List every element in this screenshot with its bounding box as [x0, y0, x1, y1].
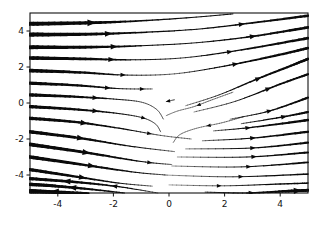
streamline-segment: [194, 106, 196, 107]
streamline-segment: [155, 149, 160, 150]
y-tick-label: 4: [18, 26, 24, 36]
streamline-segment: [264, 165, 272, 166]
streamline-segment: [207, 101, 209, 102]
streamline-segment: [264, 119, 269, 120]
streamline-segment: [268, 119, 272, 120]
streamline-segment: [187, 131, 189, 132]
streamline-segment: [208, 41, 214, 42]
streamline-segment: [225, 26, 231, 27]
streamline-segment: [145, 103, 147, 104]
streamline-segment: [186, 131, 188, 132]
x-tick-label: -2: [109, 199, 118, 209]
streamline-segment: [199, 127, 201, 128]
streamline-segment: [215, 67, 220, 68]
streamline-segment: [195, 128, 197, 129]
streamline-segment: [230, 25, 236, 26]
streamline-segment: [258, 126, 264, 127]
streamline-segment: [222, 104, 227, 105]
streamline-arrowhead-icon: [206, 124, 211, 127]
streamline-segment: [282, 154, 289, 155]
streamline-segment: [128, 188, 133, 189]
streamline-segment: [135, 147, 140, 148]
x-axis-ticks: -4-2024: [53, 193, 283, 209]
streamline-segment: [109, 156, 115, 157]
streamline-segment: [121, 158, 127, 159]
streamline-segment: [258, 137, 264, 138]
streamline-segment: [247, 122, 251, 123]
streamline-segment: [219, 40, 225, 41]
streamline-arrowhead-icon: [108, 57, 115, 62]
y-tick-label: 2: [18, 62, 24, 72]
streamline-segment: [161, 135, 165, 136]
streamline-segment: [261, 112, 265, 113]
streamline-arrowhead-icon: [166, 99, 171, 102]
streamline-segment: [217, 123, 220, 124]
streamline-segment: [189, 130, 191, 131]
streamlines-group: [30, 14, 308, 193]
streamline-segment: [235, 50, 241, 51]
streamline-segment: [204, 102, 206, 103]
streamline-segment: [217, 105, 222, 106]
streamline-segment: [153, 134, 157, 135]
streamline-segment: [272, 146, 278, 147]
streamline-segment: [200, 104, 202, 105]
y-tick-label: -2: [15, 134, 24, 144]
streamline-segment: [145, 191, 149, 192]
streamline-segment: [200, 110, 204, 111]
streamline-segment: [123, 129, 127, 130]
streamline-segment: [141, 190, 145, 191]
streamline-segment: [225, 94, 227, 95]
streamline-segment: [241, 49, 248, 50]
streamline-arrowhead-icon: [255, 77, 262, 82]
streamline-segment: [214, 124, 217, 125]
streamline-segment: [227, 103, 232, 104]
streamline-segment: [213, 41, 219, 42]
streamline-segment: [115, 128, 119, 129]
x-tick-label: 0: [166, 199, 172, 209]
streamline-segment: [212, 106, 217, 107]
streamline-segment: [201, 127, 203, 128]
streamline-segment: [220, 96, 223, 97]
streamline-segment: [222, 122, 224, 123]
streamline-segment: [178, 135, 179, 136]
streamline-segment: [194, 71, 199, 72]
streamline-segment: [110, 143, 115, 144]
streamline-segment: [218, 97, 221, 98]
streamline-segment: [192, 107, 194, 108]
streamline-arrowhead-icon: [265, 88, 272, 93]
streamline-segment: [226, 90, 230, 92]
streamline-segment: [202, 42, 208, 43]
streamline-segment: [204, 99, 208, 100]
streamline-segment: [304, 38, 308, 39]
streamline-segment: [173, 112, 174, 113]
streamline-segment: [196, 101, 200, 102]
streamline-segment: [128, 130, 132, 131]
streamline-segment: [204, 126, 207, 127]
streamline-arrowhead-icon: [92, 95, 98, 100]
streamline-segment: [252, 127, 257, 128]
streamline-segment: [179, 135, 180, 136]
streamline-segment: [208, 28, 214, 29]
streamline-segment: [255, 121, 259, 122]
streamline-segment: [181, 133, 182, 134]
streamline-segment: [190, 103, 193, 104]
streamline-segment: [225, 65, 230, 66]
streamline-segment: [248, 48, 255, 49]
streamline-segment: [277, 135, 283, 136]
streamline-segment: [219, 123, 221, 124]
streamline-segment: [263, 125, 269, 126]
streamline-segment: [263, 45, 271, 46]
streamline-segment: [141, 102, 143, 103]
streamline-segment: [288, 154, 294, 155]
streamline-segment: [223, 95, 226, 96]
streamline-segment: [268, 155, 275, 156]
streamline-arrowhead-icon: [105, 31, 113, 37]
streamline-arrowhead-icon: [147, 160, 153, 164]
streamline-segment: [212, 124, 215, 125]
streamline-segment: [219, 26, 225, 27]
streamline-arrowhead-icon: [140, 87, 145, 91]
streamline-segment: [232, 119, 235, 120]
streamline-segment: [215, 98, 218, 99]
streamline-segment: [141, 132, 145, 133]
streamline-arrowhead-icon: [141, 116, 146, 120]
